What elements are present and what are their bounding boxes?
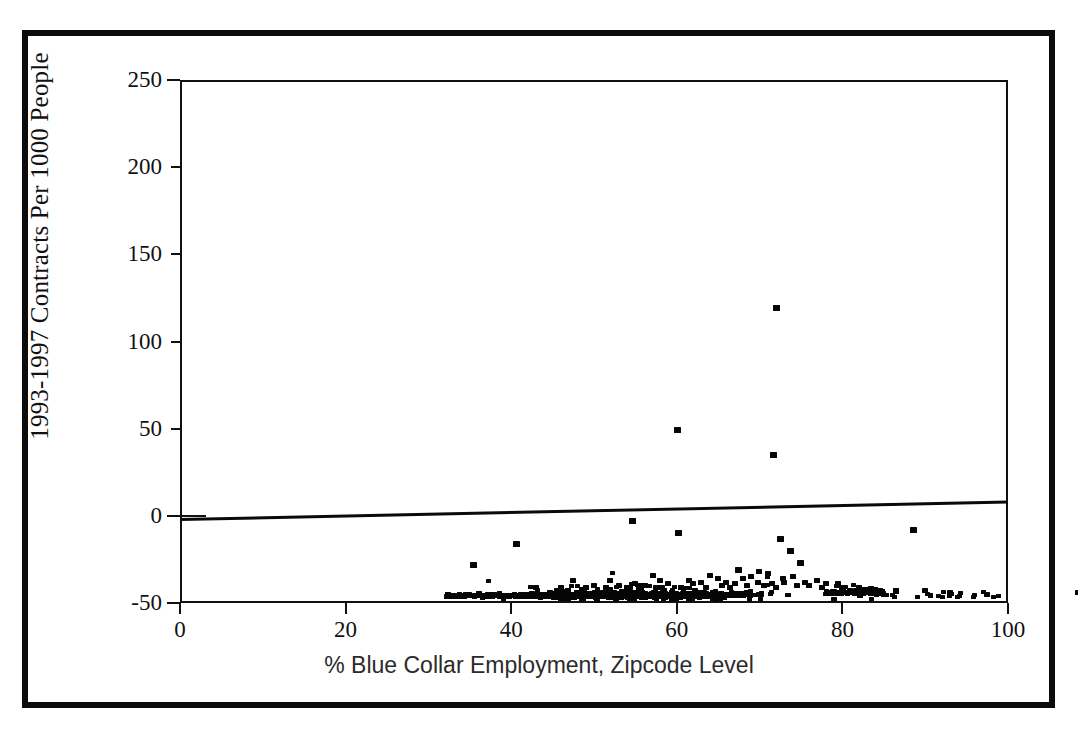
scatter-point: [703, 585, 709, 590]
scatter-point: [839, 585, 845, 590]
scatter-point: [777, 536, 784, 542]
scatter-point: [675, 530, 682, 536]
scatter-point: [759, 591, 764, 595]
scatter-point: [606, 595, 612, 599]
scatter-point: [672, 585, 677, 589]
scatter-point: [758, 597, 763, 601]
scatter-point: [704, 594, 710, 598]
scatter-point: [773, 585, 779, 590]
x-axis-tick-mark: [345, 603, 347, 614]
scatter-point: [857, 594, 862, 598]
scatter-point: [570, 578, 576, 583]
scatter-point: [872, 587, 878, 592]
scatter-point: [748, 592, 753, 596]
figure-page: 1993-1997 Contracts Per 1000 People % Bl…: [0, 0, 1078, 734]
scatter-point: [540, 593, 546, 597]
scatter-point: [619, 593, 624, 597]
scatter-point: [915, 595, 920, 599]
scatter-point: [797, 560, 804, 566]
scatter-point: [790, 574, 796, 579]
scatter-point: [765, 571, 771, 576]
scatter-point: [849, 591, 854, 595]
scatter-point: [569, 592, 574, 596]
scatter-point: [666, 594, 671, 598]
scatter-point: [594, 599, 600, 603]
scatter-point: [947, 590, 953, 595]
scatter-point: [794, 583, 800, 588]
scatter-point: [656, 595, 662, 599]
y-axis-tick-label: -50: [32, 590, 162, 616]
scatter-point: [723, 592, 728, 596]
x-axis-tick-mark: [1007, 603, 1009, 614]
scatter-point: [613, 592, 618, 596]
scatter-point: [591, 583, 597, 588]
scatter-point: [624, 585, 630, 590]
scatter-point: [678, 585, 684, 590]
scatter-point: [558, 585, 564, 590]
scatter-point: [528, 585, 533, 589]
scatter-point: [869, 597, 874, 601]
scatter-point: [509, 594, 514, 598]
scatter-point: [641, 583, 647, 588]
scatter-point: [996, 594, 1001, 598]
y-axis-tick-mark: [171, 166, 180, 168]
scatter-point: [470, 562, 477, 568]
scatter-point: [884, 593, 889, 597]
scatter-point: [781, 580, 787, 585]
scatter-point: [583, 585, 589, 590]
scatter-point: [748, 574, 754, 579]
scatter-point: [680, 595, 686, 599]
scatter-point: [773, 305, 780, 311]
scatter-point: [761, 583, 767, 588]
scatter-point: [806, 583, 812, 588]
scatter-point: [827, 592, 832, 596]
scatter-point: [710, 590, 715, 594]
scatter-point: [616, 583, 622, 588]
y-axis-tick-mark: [171, 428, 180, 430]
x-axis-tick-label: 0: [140, 617, 220, 643]
scatter-point: [499, 595, 504, 599]
scatter-point: [707, 573, 713, 578]
scatter-point: [690, 581, 696, 586]
scatter-point: [462, 595, 467, 599]
scatter-point: [513, 541, 520, 547]
scatter-point: [577, 592, 582, 596]
x-axis-title: % Blue Collar Employment, Zipcode Level: [0, 652, 1078, 679]
scatter-point: [563, 595, 569, 599]
scatter-point: [486, 579, 491, 583]
y-axis-tick-label: 0: [32, 503, 162, 529]
scatter-point: [603, 585, 609, 590]
y-axis-tick-label: 200: [32, 154, 162, 180]
scatter-point: [495, 593, 500, 597]
scatter-point: [659, 585, 665, 589]
scatter-point: [744, 583, 750, 588]
scatter-point: [756, 569, 762, 574]
scatter-point: [928, 594, 933, 598]
scatter-point: [686, 586, 692, 590]
scatter-point: [651, 593, 656, 597]
y-axis-tick-mark: [171, 253, 180, 255]
scatter-point: [457, 595, 462, 599]
scatter-point: [490, 593, 495, 597]
scatter-point: [740, 576, 746, 581]
scatter-point: [841, 591, 846, 595]
scatter-point: [476, 593, 482, 597]
scatter-point: [755, 580, 761, 585]
scatter-point: [650, 573, 656, 578]
scatter-point: [601, 592, 606, 596]
scatter-point: [719, 583, 725, 588]
x-axis-tick-mark: [179, 603, 181, 614]
scatter-point: [941, 590, 946, 594]
scatter-point: [674, 427, 681, 433]
scatter-point: [715, 576, 721, 581]
scatter-point: [610, 571, 615, 575]
scatter-point: [971, 595, 976, 599]
x-axis-tick-mark: [510, 603, 512, 614]
scatter-point: [769, 590, 774, 594]
x-axis-tick-mark: [841, 603, 843, 614]
scatter-point: [786, 593, 791, 597]
scatter-point: [984, 592, 990, 597]
x-axis-tick-label: 80: [802, 617, 882, 643]
scatter-point: [632, 594, 637, 598]
scatter-point: [696, 595, 701, 599]
